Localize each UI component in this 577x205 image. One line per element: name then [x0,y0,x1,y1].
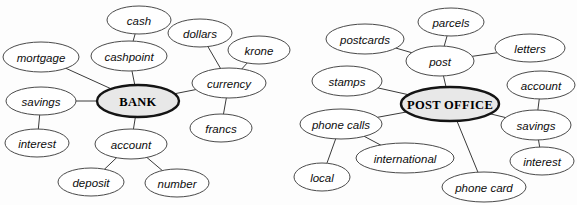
connector-account-to-deposit [104,158,116,169]
connector-phonecalls-to-international [364,136,380,145]
node-label-postoffice: POST OFFICE [407,98,493,112]
node-label-cashpoint: cashpoint [104,51,154,63]
node-label-local: local [310,172,334,184]
node-label-phonecard: phone card [454,182,513,194]
node-label-savings: savings [22,96,61,108]
connector-parcels-to-post [444,36,447,46]
node-label-bank: BANK [119,95,156,109]
node-label-cash: cash [127,15,151,27]
node-label-account: account [111,139,152,151]
node-francs[interactable]: francs [190,114,252,142]
connector-bank-to-account [133,117,135,129]
node-cash[interactable]: cash [107,6,171,34]
node-parcels[interactable]: parcels [418,8,484,36]
connector-account-to-savings [538,99,539,110]
node-post[interactable]: post [406,46,474,76]
node-interest[interactable]: interest [5,129,69,157]
node-label-krone: krone [245,45,274,57]
node-krone[interactable]: krone [228,36,290,64]
connector-phonecalls-to-local [327,139,336,163]
node-label-international: international [374,153,437,165]
word-web-diagram: BANKcashcashpointmortgagesavingsinterest… [0,0,577,205]
connector-post-to-postoffice [443,76,446,87]
node-international[interactable]: international [356,143,454,173]
connector-savings-to-interest [38,115,39,129]
node-label-parcels: parcels [431,17,469,29]
connector-krone-to-currency [242,63,247,69]
node-label-account: account [521,80,562,92]
node-deposit[interactable]: deposit [58,168,124,196]
node-dollars[interactable]: dollars [168,19,232,47]
connector-stamps-to-postoffice [378,88,409,95]
connector-currency-to-francs [223,98,226,114]
node-postcards[interactable]: postcards [326,24,404,54]
connector-phonecalls-to-postoffice [378,112,407,117]
connector-cashpoint-to-bank [132,71,135,85]
connector-postoffice-to-savings [490,114,506,118]
node-label-phonecalls: phone calls [311,119,370,131]
node-label-interest: interest [18,138,57,150]
node-label-stamps: stamps [328,76,365,88]
node-label-mortgage: mortgage [17,52,66,64]
connector-postoffice-to-phonecard [457,121,478,172]
node-label-post: post [428,56,452,68]
node-local[interactable]: local [294,163,350,191]
node-account[interactable]: account [95,129,167,159]
node-currency[interactable]: currency [192,68,266,98]
connector-savings-to-interest [538,140,539,147]
node-label-postcards: postcards [339,34,390,46]
node-stamps[interactable]: stamps [312,66,382,96]
connector-post-to-letters [472,53,497,57]
node-label-deposit: deposit [72,177,110,189]
node-letters[interactable]: letters [495,34,565,62]
node-label-dollars: dollars [183,28,217,40]
node-label-letters: letters [514,43,546,55]
node-label-number: number [158,178,198,190]
connector-account-to-number [147,157,162,170]
node-account[interactable]: account [507,71,575,99]
node-label-savings: savings [517,120,556,132]
connector-dollars-to-currency [208,47,221,69]
central-node-bank[interactable]: BANK [97,85,179,117]
node-layer: BANKcashcashpointmortgagesavingsinterest… [3,6,575,202]
node-label-currency: currency [207,78,252,90]
node-savings[interactable]: savings [6,87,76,115]
node-label-francs: francs [205,123,237,135]
node-mortgage[interactable]: mortgage [3,42,79,72]
connector-postcards-to-post [396,48,412,53]
node-phonecalls[interactable]: phone calls [300,109,382,139]
node-savings[interactable]: savings [501,110,571,140]
node-label-interest: interest [523,156,562,168]
connector-cash-to-cashpoint [133,34,135,41]
connector-mortgage-to-bank [66,68,111,89]
diagram-canvas: BANKcashcashpointmortgagesavingsinterest… [0,0,577,205]
node-phonecard[interactable]: phone card [442,172,526,202]
node-cashpoint[interactable]: cashpoint [91,41,167,71]
node-interest[interactable]: interest [510,147,574,175]
central-node-postoffice[interactable]: POST OFFICE [401,87,499,121]
connector-bank-to-currency [175,90,196,94]
node-number[interactable]: number [145,169,209,197]
